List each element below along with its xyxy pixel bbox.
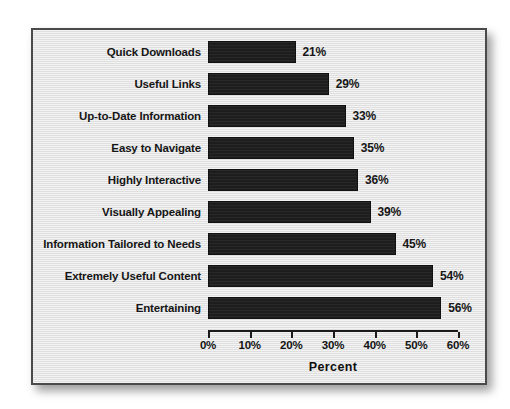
bar-value-label: 36%: [365, 169, 388, 191]
bar-wrap: Quick Downloads: [208, 41, 296, 63]
chart-figure-frame: Quick Downloads21%Useful Links29%Up-to-D…: [31, 28, 487, 385]
bar-category-label: Useful Links: [0, 73, 208, 95]
bar: [208, 137, 354, 159]
bar-value-label: 33%: [353, 105, 376, 127]
x-axis-title: Percent: [208, 360, 458, 374]
x-axis-tick: [208, 332, 210, 338]
bar-value-label: 21%: [303, 41, 326, 63]
bar-category-label: Up-to-Date Information: [0, 105, 208, 127]
bar: [208, 233, 396, 255]
x-axis-tick: [333, 332, 335, 338]
bar: [208, 169, 358, 191]
bar-row: Extremely Useful Content54%: [33, 265, 485, 297]
x-axis-tick: [416, 332, 418, 338]
bar-category-label: Entertaining: [0, 297, 208, 319]
bar-value-label: 56%: [448, 297, 471, 319]
bar-row: Quick Downloads21%: [33, 41, 485, 73]
bar-row: Visually Appealing39%: [33, 201, 485, 233]
bar-value-label: 39%: [378, 201, 401, 223]
bar-row: Information Tailored to Needs45%: [33, 233, 485, 265]
bar-category-label: Highly Interactive: [0, 169, 208, 191]
bar-category-label: Visually Appealing: [0, 201, 208, 223]
x-axis-tick: [458, 332, 460, 338]
x-axis-tick-label: 60%: [433, 339, 483, 351]
bar-wrap: Visually Appealing: [208, 201, 371, 223]
bar: [208, 105, 346, 127]
x-axis-tick: [375, 332, 377, 338]
bar: [208, 73, 329, 95]
bar: [208, 265, 433, 287]
bar-row: Up-to-Date Information33%: [33, 105, 485, 137]
bar-wrap: Easy to Navigate: [208, 137, 354, 159]
x-axis-tick: [291, 332, 293, 338]
bar: [208, 297, 441, 319]
bar-row: Highly Interactive36%: [33, 169, 485, 201]
bar-wrap: Up-to-Date Information: [208, 105, 346, 127]
bar-wrap: Highly Interactive: [208, 169, 358, 191]
bar-value-label: 35%: [361, 137, 384, 159]
bar-wrap: Useful Links: [208, 73, 329, 95]
bar-value-label: 45%: [403, 233, 426, 255]
bar-value-label: 54%: [440, 265, 463, 287]
bar: [208, 201, 371, 223]
bar-category-label: Easy to Navigate: [0, 137, 208, 159]
bar-category-label: Quick Downloads: [0, 41, 208, 63]
bar-row: Useful Links29%: [33, 73, 485, 105]
x-axis-tick: [250, 332, 252, 338]
bar-category-label: Information Tailored to Needs: [0, 233, 208, 255]
bar: [208, 41, 296, 63]
bar-row: Entertaining56%: [33, 297, 485, 329]
bar-row: Easy to Navigate35%: [33, 137, 485, 169]
bar-wrap: Extremely Useful Content: [208, 265, 433, 287]
bar-category-label: Extremely Useful Content: [0, 265, 208, 287]
bar-wrap: Information Tailored to Needs: [208, 233, 396, 255]
bar-chart: Quick Downloads21%Useful Links29%Up-to-D…: [33, 30, 485, 383]
bar-wrap: Entertaining: [208, 297, 441, 319]
bar-value-label: 29%: [336, 73, 359, 95]
